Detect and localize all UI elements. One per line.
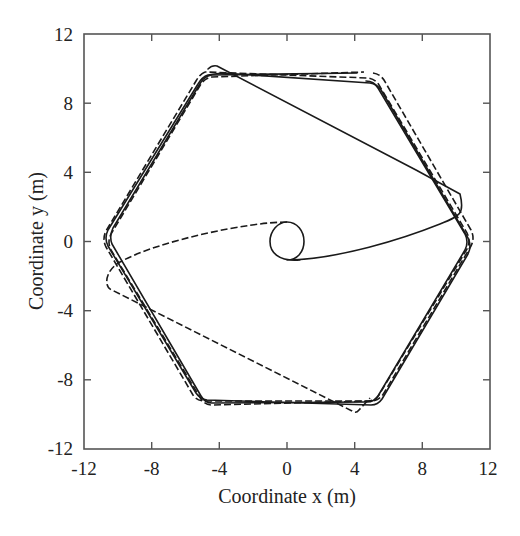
dashed-hexagon-lap-1 xyxy=(104,72,469,401)
plot-frame xyxy=(84,34,490,449)
y-tick-labels: 12 8 4 0 -4 -8 -12 xyxy=(48,24,74,459)
x-tick-label: 12 xyxy=(479,458,498,479)
y-axis-ticks xyxy=(84,103,490,380)
y-tick-label: 0 xyxy=(64,231,74,252)
y-axis-label: Coordinate y (m) xyxy=(25,172,48,310)
x-tick-label: -4 xyxy=(211,458,227,479)
y-tick-label: 8 xyxy=(64,93,74,114)
y-tick-label: -12 xyxy=(48,438,73,459)
y-tick-label: -4 xyxy=(57,300,73,321)
x-tick-label: 4 xyxy=(350,458,360,479)
dashed-trajectory-start xyxy=(107,222,370,412)
solid-hexagon-lap-1 xyxy=(106,73,470,405)
x-tick-label: -8 xyxy=(144,458,160,479)
x-tick-label: 0 xyxy=(282,458,292,479)
x-axis-label: Coordinate x (m) xyxy=(218,485,356,508)
y-tick-label: -8 xyxy=(57,369,73,390)
y-tick-label: 12 xyxy=(54,24,73,45)
trajectory-chart: -12 -8 -4 0 4 8 12 12 8 4 0 -4 -8 -12 Co… xyxy=(0,0,520,536)
x-tick-label: -12 xyxy=(71,458,96,479)
solid-hexagon-lap-2 xyxy=(111,73,467,403)
dashed-hexagon-lap-2 xyxy=(109,72,473,405)
plot-area xyxy=(104,66,473,412)
x-tick-labels: -12 -8 -4 0 4 8 12 xyxy=(71,458,497,479)
y-tick-label: 4 xyxy=(64,162,74,183)
x-tick-label: 8 xyxy=(418,458,428,479)
